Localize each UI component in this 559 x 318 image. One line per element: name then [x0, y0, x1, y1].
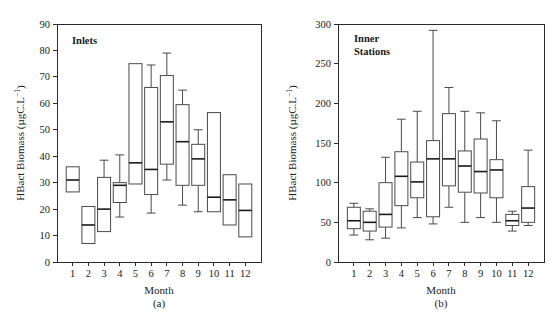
x-tick-label: 8 [462, 268, 467, 279]
box-iqr [379, 183, 392, 227]
y-tick-label: 20 [40, 204, 51, 215]
x-tick-label: 12 [240, 268, 251, 279]
x-tick-label: 2 [86, 268, 91, 279]
y-tick-label: 100 [315, 177, 331, 188]
x-tick-label: 6 [430, 268, 435, 279]
y-axis-title-exponent: −1 [13, 89, 22, 97]
box-group [347, 203, 360, 235]
boxplot-series [347, 30, 534, 239]
y-tick-label: 200 [315, 98, 331, 109]
box-iqr [347, 207, 360, 228]
panel-title: InnerStations [354, 33, 390, 57]
x-tick-label: 2 [367, 268, 372, 279]
box-group [363, 209, 376, 240]
box-iqr [192, 144, 205, 185]
box-iqr [411, 162, 424, 198]
panel-a-inlets: 0102030405060708090HBact Biomass (µgC.L−… [0, 0, 272, 318]
x-tick-label: 3 [101, 268, 106, 279]
figure-container: 0102030405060708090HBact Biomass (µgC.L−… [0, 0, 559, 318]
box-group [522, 150, 535, 225]
box-iqr [176, 105, 189, 186]
box-group [411, 111, 424, 217]
y-axis-title-exponent: −1 [285, 89, 294, 97]
x-tick-label: 9 [478, 268, 483, 279]
x-tick-label: 1 [70, 268, 75, 279]
x-tick-label: 11 [507, 268, 517, 279]
boxplot-series [66, 53, 252, 243]
box-group [98, 160, 111, 231]
box-group [490, 121, 503, 223]
x-axis-title: Month [144, 284, 174, 296]
y-tick-label: 10 [40, 230, 51, 241]
x-tick-label: 1 [351, 268, 356, 279]
box-iqr [490, 160, 503, 198]
x-tick-label: 10 [491, 268, 502, 279]
x-tick-label: 3 [383, 268, 388, 279]
y-tick-label: 250 [315, 58, 331, 69]
box-group [207, 113, 220, 212]
y-axis: 0102030405060708090 [40, 19, 58, 268]
y-tick-label: 300 [315, 19, 331, 30]
x-tick-label: 8 [180, 268, 185, 279]
box-group [113, 155, 126, 217]
y-tick-label: 70 [40, 71, 51, 82]
x-tick-label: 7 [446, 268, 451, 279]
y-axis-title-main: HBact Biomass (µgC.L [286, 97, 299, 201]
panel-letter: (a) [153, 297, 166, 310]
y-tick-label: 0 [326, 257, 331, 268]
panel-letter: (b) [435, 297, 448, 310]
x-axis-title: Month [426, 284, 456, 296]
box-group [145, 65, 158, 213]
panel-title-line2: Stations [354, 46, 390, 57]
x-tick-label: 5 [415, 268, 420, 279]
x-tick-label: 4 [117, 268, 123, 279]
y-tick-label: 40 [40, 151, 51, 162]
box-iqr [160, 76, 173, 165]
box-iqr [474, 139, 487, 193]
box-group [192, 130, 205, 212]
y-axis-title-text: HBact Biomass (µgC.L−1) [285, 85, 299, 201]
box-group [223, 175, 236, 225]
panel-title-line1: Inner [354, 33, 379, 44]
y-tick-label: 80 [40, 45, 51, 56]
box-iqr [395, 152, 408, 206]
x-tick-label: 12 [523, 268, 534, 279]
y-axis-title-text: HBact Biomass (µgC.L−1) [13, 85, 27, 201]
box-iqr [458, 151, 471, 192]
x-tick-label: 10 [209, 268, 220, 279]
boxplot-inlets: 0102030405060708090HBact Biomass (µgC.L−… [0, 0, 272, 318]
y-axis: 050100150200250300 [315, 19, 338, 268]
y-axis-title-main: HBact Biomass (µgC.L [14, 97, 27, 201]
y-axis-title: HBact Biomass (µgC.L−1) [13, 85, 27, 201]
box-group [160, 53, 173, 180]
panel-b-inner-stations: 050100150200250300HBact Biomass (µgC.L−1… [272, 0, 559, 318]
box-iqr [363, 211, 376, 231]
x-axis: 123456789101112 [70, 262, 250, 279]
box-group [458, 111, 471, 222]
box-group [442, 87, 455, 207]
y-tick-label: 50 [40, 124, 51, 135]
box-group [379, 157, 392, 238]
box-group [82, 206, 95, 243]
box-group [176, 90, 189, 205]
box-group [474, 113, 487, 218]
x-tick-label: 6 [149, 268, 154, 279]
panel-title-text: Inlets [72, 35, 97, 46]
x-tick-label: 5 [133, 268, 138, 279]
box-group [239, 184, 252, 237]
y-tick-label: 30 [40, 177, 51, 188]
x-tick-label: 11 [225, 268, 235, 279]
y-tick-label: 50 [321, 217, 332, 228]
x-tick-label: 7 [164, 268, 169, 279]
box-group [66, 167, 79, 192]
x-tick-label: 4 [399, 268, 405, 279]
box-iqr [129, 64, 142, 184]
box-group [506, 211, 519, 231]
x-axis: 123456789101112 [351, 262, 533, 279]
y-axis-title: HBact Biomass (µgC.L−1) [285, 85, 299, 201]
y-axis-title-suffix: ) [286, 85, 299, 89]
boxplot-inner-stations: 050100150200250300HBact Biomass (µgC.L−1… [272, 0, 559, 318]
box-iqr [427, 141, 440, 217]
box-iqr [442, 114, 455, 186]
y-tick-label: 0 [45, 257, 50, 268]
